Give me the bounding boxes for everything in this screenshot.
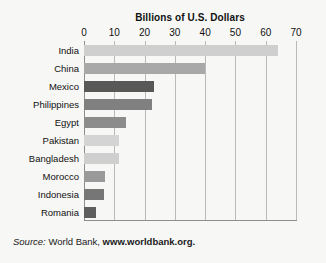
category-label-morocco: Morocco xyxy=(43,171,79,182)
category-label-india: India xyxy=(58,45,79,56)
category-label-mexico: Mexico xyxy=(49,81,79,92)
category-label-indonesia: Indonesia xyxy=(38,189,79,200)
chart-title: Billions of U.S. Dollars xyxy=(84,12,296,23)
x-tick-label-30: 30 xyxy=(169,27,180,38)
category-label-philippines: Philippines xyxy=(33,99,79,110)
gridline-40 xyxy=(205,41,206,221)
bar-romania xyxy=(84,207,96,218)
x-tick-label-20: 20 xyxy=(139,27,150,38)
category-label-bangladesh: Bangladesh xyxy=(29,153,79,164)
x-axis-line xyxy=(84,220,297,221)
bar-indonesia xyxy=(84,189,104,200)
x-tick-label-10: 10 xyxy=(109,27,120,38)
chart-figure: Billions of U.S. Dollars 010203040506070… xyxy=(0,0,326,263)
bar-china xyxy=(84,63,205,74)
gridline-70 xyxy=(296,41,297,221)
x-tick-label-0: 0 xyxy=(81,27,87,38)
x-tick-label-60: 60 xyxy=(260,27,271,38)
source-url: www.worldbank.org. xyxy=(103,236,196,247)
source-publisher: World Bank, xyxy=(48,236,100,247)
bar-egypt xyxy=(84,117,126,128)
category-label-egypt: Egypt xyxy=(55,117,79,128)
source-note: Source: World Bank, www.worldbank.org. xyxy=(13,236,195,247)
y-axis-category-labels: IndiaChinaMexicoPhilippinesEgyptPakistan… xyxy=(0,41,79,221)
gridline-60 xyxy=(266,41,267,221)
bar-pakistan xyxy=(84,135,119,146)
bar-morocco xyxy=(84,171,105,182)
x-tick-label-40: 40 xyxy=(200,27,211,38)
x-tick-label-70: 70 xyxy=(290,27,301,38)
bar-india xyxy=(84,45,278,56)
plot-area xyxy=(84,41,296,221)
category-label-china: China xyxy=(54,63,79,74)
bar-bangladesh xyxy=(84,153,119,164)
bar-philippines xyxy=(84,99,152,110)
x-tick-label-50: 50 xyxy=(230,27,241,38)
source-prefix: Source: xyxy=(13,236,46,247)
gridline-50 xyxy=(235,41,236,221)
category-label-romania: Romania xyxy=(41,207,79,218)
bar-mexico xyxy=(84,81,154,92)
category-label-pakistan: Pakistan xyxy=(43,135,79,146)
